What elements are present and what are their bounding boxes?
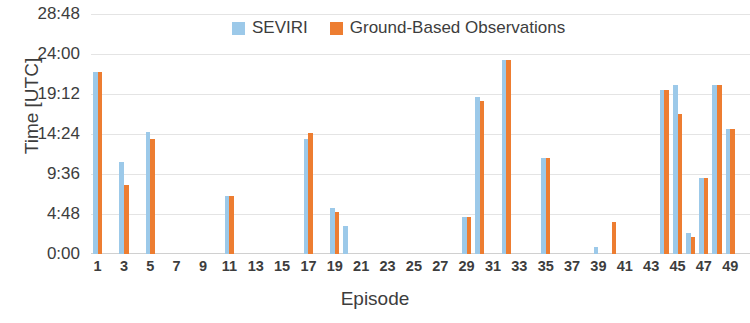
legend-item-ground-based-observations: Ground-Based Observations bbox=[330, 18, 565, 38]
x-axis-tick-label: 3 bbox=[120, 258, 128, 274]
y-axis-tick-label: 19:12 bbox=[37, 84, 80, 104]
x-axis-tick-label: 5 bbox=[146, 258, 154, 274]
bar-ground-episode-45 bbox=[678, 114, 683, 254]
chart-legend: SEVIRIGround-Based Observations bbox=[232, 18, 565, 38]
y-axis-tick-label: 9:36 bbox=[47, 164, 80, 184]
x-axis-tick-label: 13 bbox=[248, 258, 264, 274]
x-axis-tick-label: 7 bbox=[173, 258, 181, 274]
bar-seviri-episode-39 bbox=[594, 247, 599, 254]
bar-seviri-episode-20 bbox=[343, 226, 348, 254]
x-axis-tick-label: 23 bbox=[379, 258, 395, 274]
gridline bbox=[91, 134, 750, 135]
bar-ground-episode-17 bbox=[308, 133, 313, 254]
x-axis-tick-label: 11 bbox=[222, 258, 237, 274]
x-axis-tick-label: 31 bbox=[485, 258, 501, 274]
x-axis-tick-label: 27 bbox=[432, 258, 448, 274]
y-axis-tick-label: 4:48 bbox=[47, 204, 80, 224]
x-axis-tick-label: 35 bbox=[538, 258, 554, 274]
gridline bbox=[91, 54, 750, 55]
bar-ground-episode-30 bbox=[480, 101, 485, 254]
x-axis-tick-label: 41 bbox=[617, 258, 633, 274]
gridline bbox=[91, 174, 750, 175]
x-axis-tick-label: 25 bbox=[406, 258, 422, 274]
x-axis-tick-label: 45 bbox=[669, 258, 685, 274]
x-axis-tick-label: 9 bbox=[199, 258, 207, 274]
x-axis-tick-label: 1 bbox=[94, 258, 102, 274]
legend-item-seviri: SEVIRI bbox=[232, 18, 308, 38]
bar-ground-episode-44 bbox=[664, 90, 669, 254]
x-axis-tick-label: 15 bbox=[274, 258, 290, 274]
bar-ground-episode-11 bbox=[229, 196, 234, 254]
bar-ground-episode-48 bbox=[717, 85, 722, 254]
x-axis-tick-label: 19 bbox=[327, 258, 343, 274]
bar-ground-episode-46 bbox=[691, 237, 696, 254]
x-axis-tick-label: 47 bbox=[696, 258, 712, 274]
legend-swatch-icon bbox=[330, 22, 343, 35]
x-axis-baseline bbox=[91, 253, 750, 254]
x-axis-tick-label: 37 bbox=[564, 258, 580, 274]
bar-ground-episode-29 bbox=[467, 217, 472, 255]
legend-swatch-icon bbox=[232, 22, 245, 35]
x-axis-tick-label: 29 bbox=[459, 258, 475, 274]
x-axis-tick-label: 43 bbox=[643, 258, 659, 274]
bar-ground-episode-35 bbox=[546, 158, 551, 254]
bar-ground-episode-49 bbox=[730, 129, 735, 254]
bar-ground-episode-1 bbox=[98, 72, 103, 254]
x-axis-tick-label: 49 bbox=[722, 258, 738, 274]
bar-ground-episode-3 bbox=[124, 185, 129, 254]
bar-ground-episode-5 bbox=[150, 139, 155, 254]
y-axis-tick-label: 24:00 bbox=[37, 44, 80, 64]
bar-chart: Time [UTC] 0:004:489:3614:2419:1224:0028… bbox=[0, 0, 750, 323]
gridline bbox=[91, 214, 750, 215]
y-axis-tick-label: 14:24 bbox=[37, 124, 80, 144]
bar-ground-episode-32 bbox=[506, 60, 511, 254]
x-axis-tick-label: 21 bbox=[353, 258, 369, 274]
plot-area bbox=[91, 14, 750, 254]
y-axis-tick-label: 0:00 bbox=[47, 244, 80, 264]
gridline bbox=[91, 14, 750, 15]
bar-ground-episode-19 bbox=[335, 212, 340, 254]
legend-label: Ground-Based Observations bbox=[350, 18, 565, 38]
x-axis-tick-label: 39 bbox=[590, 258, 606, 274]
legend-label: SEVIRI bbox=[252, 18, 308, 38]
y-axis-tick-labels: 0:004:489:3614:2419:1224:0028:48 bbox=[0, 0, 86, 323]
x-axis-tick-labels: 1357911131517192123252729313335373941434… bbox=[91, 258, 750, 284]
x-axis-title: Episode bbox=[0, 288, 750, 310]
x-axis-tick-label: 33 bbox=[511, 258, 527, 274]
bar-ground-episode-40 bbox=[612, 222, 617, 254]
x-axis-tick-label: 17 bbox=[300, 258, 316, 274]
gridline bbox=[91, 94, 750, 95]
y-axis-tick-label: 28:48 bbox=[37, 4, 80, 24]
bar-ground-episode-47 bbox=[704, 178, 709, 254]
